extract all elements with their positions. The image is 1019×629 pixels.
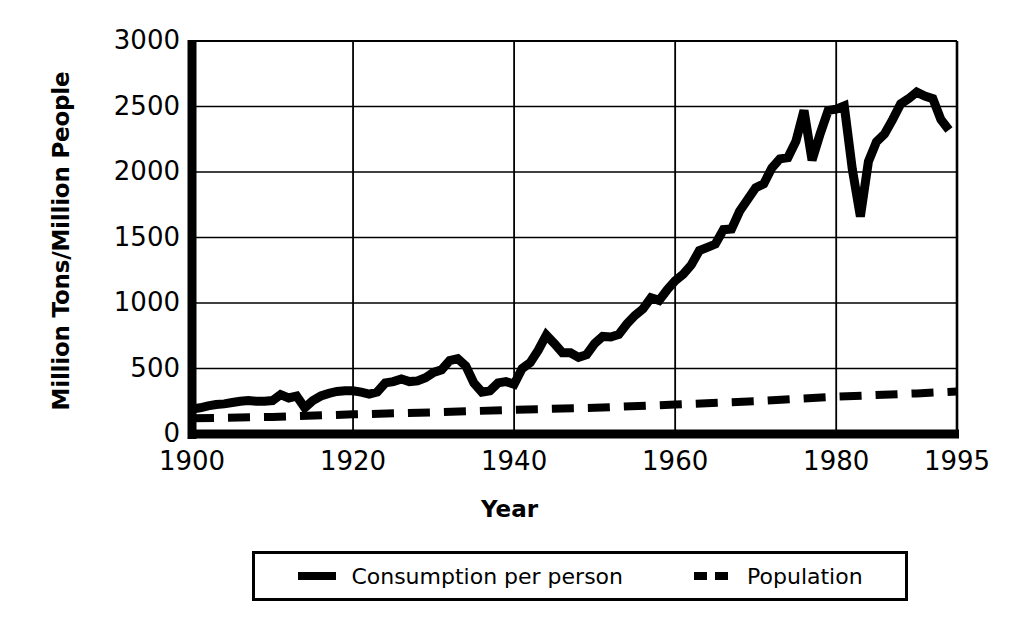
legend-item-consumption: Consumption per person [297,564,623,589]
gridlines [192,41,957,434]
x-tick-label: 1995 [924,448,990,474]
chart-container: Million Tons/Million People 050010001500… [0,0,1019,629]
data-series-layer [192,92,957,418]
x-axis-title: Year [0,496,1019,522]
legend-item-population: Population [693,564,863,589]
x-tick-label: 1900 [159,448,225,474]
legend-label-population: Population [747,564,863,589]
plot-area [0,0,1019,470]
x-axis-tick-labels: 190019201940196019801995 [0,448,1019,488]
x-tick-label: 1960 [642,448,708,474]
chart-legend: Consumption per person Population [252,551,908,601]
x-tick-label: 1940 [481,448,547,474]
dashed-line-swatch-icon [693,566,733,586]
x-tick-label: 1920 [320,448,386,474]
axis-lines [188,40,959,439]
x-tick-label: 1980 [803,448,869,474]
solid-line-swatch-icon [297,566,337,586]
legend-label-consumption: Consumption per person [351,564,623,589]
